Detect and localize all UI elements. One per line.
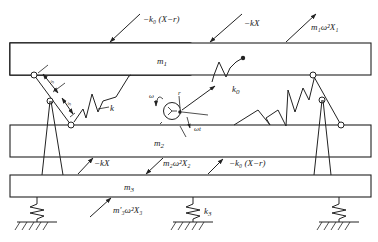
force-top-left: −k₀ (X−r)	[110, 14, 180, 42]
force-mid-center: m₂ω²X₂	[146, 158, 190, 174]
label-k0: k0	[232, 84, 240, 96]
spring-k: k	[74, 75, 131, 122]
force-top-mid: −kX	[210, 14, 260, 42]
mass-m3	[10, 175, 371, 197]
svg-text:−k₀ (X−r): −k₀ (X−r)	[229, 158, 266, 168]
svg-text:−k₀ (X−r): −k₀ (X−r)	[143, 14, 180, 24]
ground-spring-center: k3	[171, 197, 213, 230]
spring-right	[234, 75, 315, 126]
svg-text:m₁ω²X₁: m₁ω²X₁	[311, 22, 338, 32]
svg-text:−kX: −kX	[244, 18, 260, 28]
ground-spring-right	[317, 197, 359, 230]
svg-text:−kX: −kX	[94, 158, 110, 168]
ground-spring-left	[15, 197, 57, 230]
label-omega: ω	[149, 92, 154, 100]
svg-text:m′₃ω²X₃: m′₃ω²X₃	[113, 205, 142, 215]
label-k3: k3	[204, 206, 212, 218]
right-link	[310, 72, 344, 128]
label-s1: s	[48, 78, 56, 85]
label-s2: s	[65, 100, 73, 107]
force-mid-right: −k₀ (X−r)	[208, 158, 266, 174]
label-k: k	[110, 103, 115, 113]
svg-text:m₂ω²X₂: m₂ω²X₂	[163, 158, 190, 168]
force-top-right: m₁ω²X₁	[286, 14, 338, 42]
force-mid-left: −kX	[78, 158, 110, 174]
diagram-canvas: m1 m2 m3 s s k k0	[0, 0, 378, 242]
force-bottom: m′₃ω²X₃	[90, 198, 142, 217]
mass-m1	[10, 43, 371, 75]
label-omega-t: ωt	[194, 125, 202, 133]
label-r: r	[178, 89, 181, 97]
